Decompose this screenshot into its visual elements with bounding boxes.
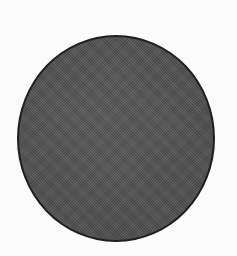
gray-circle [17, 35, 215, 242]
image-canvas [0, 0, 237, 256]
